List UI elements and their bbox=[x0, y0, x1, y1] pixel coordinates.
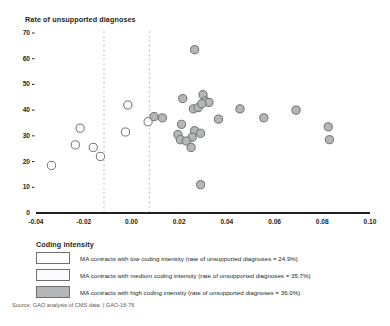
data-point bbox=[236, 105, 244, 113]
legend-swatch-high bbox=[36, 286, 70, 298]
plot-area: Rate of unsupported diagnoses 0102030405… bbox=[0, 0, 390, 230]
data-point bbox=[96, 152, 104, 160]
y-tick-label: 50 bbox=[12, 80, 30, 87]
y-tick-label: 40 bbox=[12, 106, 30, 113]
data-point bbox=[177, 120, 185, 128]
y-tick-label: 70 bbox=[12, 29, 30, 36]
x-tick-label: 0.00 bbox=[115, 218, 147, 225]
data-point bbox=[121, 128, 129, 136]
data-point bbox=[324, 123, 332, 131]
legend-swatch-low bbox=[36, 252, 70, 264]
data-point bbox=[158, 114, 166, 122]
x-tick-label: 0.08 bbox=[306, 218, 338, 225]
legend-label-high: MA contracts with high coding intensity … bbox=[80, 289, 300, 296]
scatter-plot-svg bbox=[0, 0, 390, 230]
legend-label-low: MA contracts with low coding intensity (… bbox=[80, 255, 298, 262]
x-tick-label: 0.10 bbox=[354, 218, 386, 225]
y-tick-label: 20 bbox=[12, 158, 30, 165]
y-tick-label: 10 bbox=[12, 183, 30, 190]
data-point bbox=[325, 136, 333, 144]
data-point bbox=[71, 141, 79, 149]
x-tick-label: 0.04 bbox=[211, 218, 243, 225]
data-points-group bbox=[47, 46, 333, 189]
chart-figure: Rate of unsupported diagnoses 0102030405… bbox=[0, 0, 390, 326]
legend-label-medium: MA contracts with medium coding intensit… bbox=[80, 272, 311, 279]
data-point bbox=[292, 106, 300, 114]
data-point bbox=[150, 112, 158, 120]
data-point bbox=[198, 100, 206, 108]
data-point bbox=[124, 101, 132, 109]
data-point bbox=[47, 161, 55, 169]
legend-title: Coding intensity bbox=[36, 240, 94, 249]
legend-swatch-medium bbox=[36, 269, 70, 281]
data-point bbox=[197, 129, 205, 137]
source-note: Source: GAO analysis of CMS data. | GAO-… bbox=[12, 302, 134, 308]
data-point bbox=[191, 46, 199, 54]
x-tick-label: -0.02 bbox=[68, 218, 100, 225]
data-point bbox=[89, 143, 97, 151]
x-tick-label: 0.06 bbox=[259, 218, 291, 225]
reference-lines-group bbox=[104, 31, 149, 213]
x-tick-label: -0.04 bbox=[20, 218, 52, 225]
data-point bbox=[179, 94, 187, 102]
chart-legend: Coding intensity MA contracts with low c… bbox=[0, 236, 390, 306]
data-point bbox=[260, 114, 268, 122]
y-tick-label: 0 bbox=[12, 209, 30, 216]
data-point bbox=[214, 115, 222, 123]
data-point bbox=[197, 181, 205, 189]
y-tick-label: 30 bbox=[12, 132, 30, 139]
y-tick-label: 60 bbox=[12, 55, 30, 62]
data-point bbox=[76, 124, 84, 132]
data-point bbox=[187, 143, 195, 151]
x-tick-label: 0.02 bbox=[163, 218, 195, 225]
